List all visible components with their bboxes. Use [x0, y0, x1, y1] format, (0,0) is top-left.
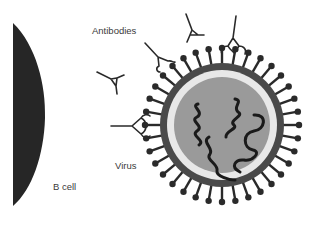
spike-head	[278, 72, 284, 78]
diagram-canvas	[0, 0, 319, 228]
spike-head	[268, 63, 274, 69]
spike-head	[295, 135, 301, 141]
spike-head	[160, 171, 166, 177]
spike-head	[245, 194, 251, 200]
spike-head	[146, 95, 152, 101]
spike-head	[169, 181, 175, 187]
spike-head	[291, 95, 297, 101]
spike-head	[143, 108, 149, 114]
b-cell-label: B cell	[53, 181, 76, 192]
virus-core	[174, 77, 270, 173]
spike-head	[257, 188, 263, 194]
antibody-free-top	[186, 14, 204, 42]
spike-head	[257, 55, 263, 61]
spike-head	[169, 63, 175, 69]
virus-label: Virus	[115, 160, 136, 171]
spike-head	[180, 55, 186, 61]
spike-head	[180, 188, 186, 194]
spike-head	[192, 49, 198, 55]
spike-head	[285, 83, 291, 89]
b-cell-shape	[13, 23, 45, 206]
antibodies-label: Antibodies	[92, 25, 136, 36]
spike-head	[291, 148, 297, 154]
spike-head	[152, 83, 158, 89]
spike-head	[205, 198, 211, 204]
spike-head	[295, 108, 301, 114]
spike-head	[205, 46, 211, 52]
antibody-free-left	[97, 72, 124, 94]
spike-head	[192, 194, 198, 200]
spike-head	[146, 148, 152, 154]
spike-head	[296, 122, 302, 128]
spike-head	[285, 160, 291, 166]
spike-head	[268, 181, 274, 187]
spike-head	[232, 198, 238, 204]
spike-head	[152, 160, 158, 166]
spike-head	[219, 199, 225, 205]
spike-head	[160, 72, 166, 78]
spike-head	[278, 171, 284, 177]
